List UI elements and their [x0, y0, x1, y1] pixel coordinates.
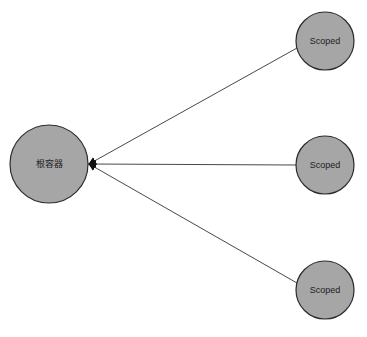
- scoped-node-middle-label: Scoped: [310, 160, 341, 170]
- root-node-label: 根容器: [36, 158, 63, 169]
- scoped-node-bottom[interactable]: Scoped: [296, 261, 354, 319]
- diagram-canvas: 根容器 Scoped Scoped Scoped: [0, 0, 367, 337]
- scoped-node-top[interactable]: Scoped: [296, 12, 354, 70]
- scoped-node-middle[interactable]: Scoped: [296, 136, 354, 194]
- edge-middle-to-root: [89, 164, 296, 165]
- edges: [89, 48, 297, 283]
- scoped-node-bottom-label: Scoped: [310, 285, 341, 295]
- root-node[interactable]: 根容器: [10, 125, 88, 203]
- edge-top-to-root: [89, 48, 297, 164]
- edge-bottom-to-root: [89, 164, 297, 283]
- scoped-node-top-label: Scoped: [310, 36, 341, 46]
